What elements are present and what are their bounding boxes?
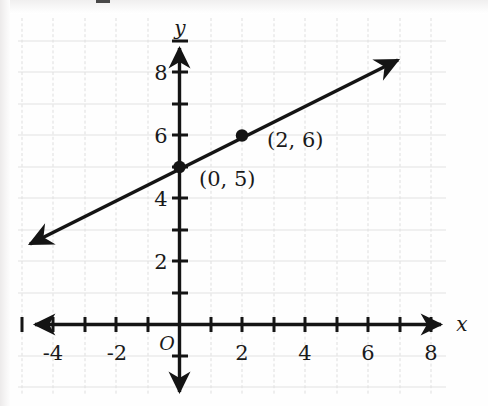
x-tick-label--4: -4 <box>43 341 63 365</box>
x-axis-label: x <box>456 312 467 336</box>
point-annotation-0-5: (0, 5) <box>199 167 255 191</box>
x-tick-label--2: -2 <box>107 341 127 365</box>
x-tick-label-6: 6 <box>361 341 374 365</box>
y-tick-label-6: 6 <box>154 124 167 148</box>
data-point-2-6 <box>236 129 248 141</box>
x-tick-label-2: 2 <box>235 341 248 365</box>
point-annotation-2-6: (2, 6) <box>267 128 323 152</box>
y-tick-label-8: 8 <box>154 61 167 85</box>
grid-horizontal-lines <box>18 41 446 387</box>
graph-figure: -4 -2 2 4 6 8 2 4 6 8 O x y (0, 5) (2, 6… <box>0 0 488 406</box>
y-tick-label-4: 4 <box>154 187 167 211</box>
data-point-0-5 <box>173 161 185 173</box>
x-tick-label-8: 8 <box>424 341 437 365</box>
coordinate-plane: -4 -2 2 4 6 8 2 4 6 8 O x y (0, 5) (2, 6… <box>0 0 488 406</box>
x-tick-label-4: 4 <box>298 341 311 365</box>
y-tick-label-2: 2 <box>154 250 167 274</box>
origin-label: O <box>159 332 175 354</box>
graph-line <box>30 60 398 244</box>
y-axis-label: y <box>173 16 186 40</box>
